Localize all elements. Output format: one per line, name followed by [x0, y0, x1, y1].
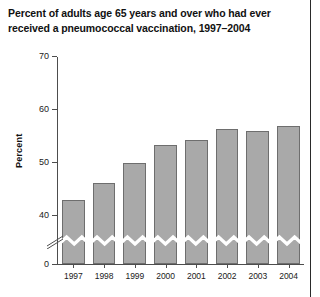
x-tick-mark-1998 [104, 264, 105, 268]
y-tick-label: 70 [39, 51, 49, 61]
y-tick-label: 0 [44, 259, 49, 269]
x-tick-mark-2000 [166, 264, 167, 268]
x-axis-line [57, 264, 304, 265]
chart-title-line-1: Percent of adults age 65 years and over … [8, 6, 298, 21]
chart-figure: Percent of adults age 65 years and over … [0, 0, 320, 297]
bar-1999 [123, 163, 146, 264]
y-tick-mark [52, 264, 57, 265]
x-tick-label-2001: 2001 [187, 271, 206, 281]
x-tick-mark-2002 [227, 264, 228, 268]
x-tick-label-1999: 1999 [125, 271, 144, 281]
bar-2000 [154, 145, 177, 264]
x-tick-mark-1997 [73, 264, 74, 268]
y-axis-label: Percent [14, 134, 24, 168]
x-tick-mark-2004 [289, 264, 290, 268]
y-tick-mark [52, 109, 57, 110]
x-tick-label-2004: 2004 [279, 271, 298, 281]
x-tick-label-2002: 2002 [218, 271, 237, 281]
x-tick-mark-1999 [135, 264, 136, 268]
x-tick-mark-2001 [196, 264, 197, 268]
x-tick-label-1997: 1997 [64, 271, 83, 281]
y-tick-label: 40 [39, 210, 49, 220]
bar-2003 [246, 131, 269, 264]
bar-series [58, 57, 304, 264]
y-tick-mark [52, 215, 57, 216]
bar-2001 [185, 140, 208, 264]
plot-area: 040506070 199719981999200020012002200320… [57, 57, 304, 265]
y-tick-label: 50 [39, 157, 49, 167]
x-tick-label-2003: 2003 [248, 271, 267, 281]
y-tick-mark [52, 162, 57, 163]
x-tick-mark-2003 [258, 264, 259, 268]
bar-1998 [93, 183, 116, 264]
bar-2004 [277, 126, 300, 264]
x-tick-label-2000: 2000 [156, 271, 175, 281]
x-tick-label-1998: 1998 [95, 271, 114, 281]
bar-1997 [62, 200, 85, 264]
page-rule-divider [310, 0, 311, 297]
y-tick-mark [52, 56, 57, 57]
chart-title: Percent of adults age 65 years and over … [8, 6, 298, 36]
bar-2002 [216, 129, 239, 264]
y-tick-label: 60 [39, 104, 49, 114]
chart-title-line-2: received a pneumococcal vaccination, 199… [8, 21, 298, 36]
